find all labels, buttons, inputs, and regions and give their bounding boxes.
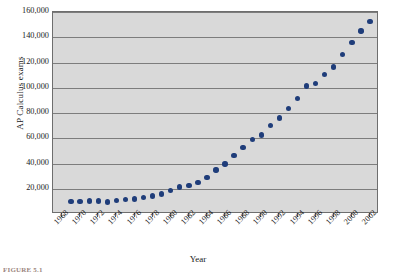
data-point (231, 153, 236, 158)
data-point (259, 132, 264, 137)
data-point (186, 183, 191, 188)
y-tick-label: 40,000 (5, 159, 49, 167)
x-axis-tick-labels: 1968197019721974197619781980198219841986… (0, 213, 396, 253)
data-point (105, 199, 110, 204)
data-point (123, 197, 128, 202)
plot-area (52, 11, 378, 213)
data-point (331, 64, 336, 69)
data-point (87, 198, 92, 203)
y-tick-label: 120,000 (5, 58, 49, 66)
data-point (141, 195, 146, 200)
data-point (204, 175, 209, 180)
y-tick-label: 140,000 (5, 32, 49, 40)
data-point (240, 145, 245, 150)
y-tick-label: 160,000 (5, 7, 49, 15)
gridline (53, 88, 377, 89)
data-point (222, 161, 227, 166)
data-point (313, 81, 318, 86)
y-tick-label: 20,000 (5, 184, 49, 192)
gridline (53, 189, 377, 190)
gridline (53, 138, 377, 139)
figure-container: 20,00040,00060,00080,000100,000120,00014… (0, 0, 396, 276)
y-tick-label: 80,000 (5, 108, 49, 116)
y-axis-title: AP Calculus exams (15, 23, 25, 163)
data-point (304, 83, 309, 88)
data-point (250, 137, 255, 142)
data-point (340, 52, 345, 57)
y-tick-label: 100,000 (5, 83, 49, 91)
figure-caption: FIGURE 5.1 (3, 266, 43, 274)
data-point (168, 188, 173, 193)
gridline (53, 164, 377, 165)
data-point (96, 198, 101, 203)
gridline (53, 113, 377, 114)
data-point (159, 191, 164, 196)
data-point (77, 199, 82, 204)
data-point (114, 198, 119, 203)
data-point (295, 96, 300, 101)
data-point (132, 196, 137, 201)
y-tick-label: 60,000 (5, 133, 49, 141)
data-point (268, 123, 273, 128)
data-point (322, 72, 327, 77)
data-point (277, 115, 282, 120)
gridline (53, 12, 377, 13)
data-point (286, 106, 291, 111)
data-point (195, 180, 200, 185)
data-point (358, 28, 363, 33)
data-point (367, 19, 372, 24)
data-point (349, 40, 354, 45)
gridline (53, 37, 377, 38)
x-axis-title: Year (0, 254, 396, 264)
gridline (53, 63, 377, 64)
data-point (150, 193, 155, 198)
data-point (68, 199, 73, 204)
data-point (213, 167, 218, 172)
